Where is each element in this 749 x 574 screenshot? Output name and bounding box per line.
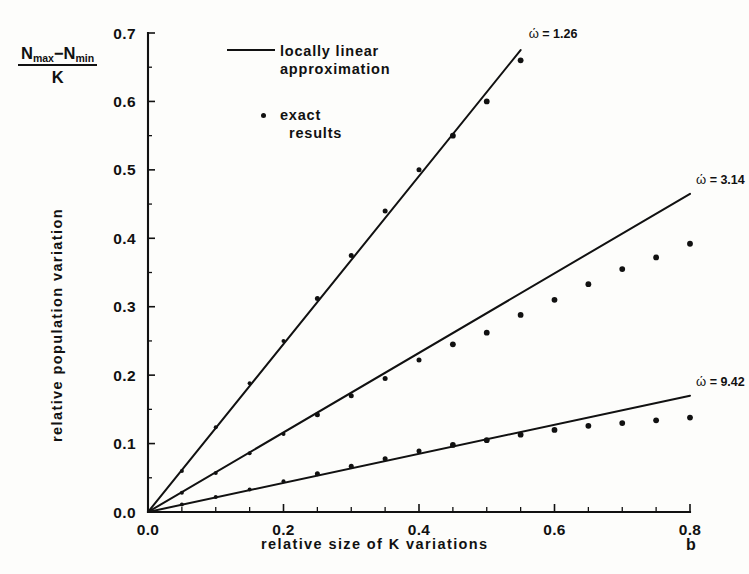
data-point (687, 241, 693, 247)
data-point (552, 297, 558, 303)
x-variable-symbol: b (686, 536, 696, 553)
data-point (383, 208, 388, 213)
series-label: ώ = 1.26 (529, 26, 578, 41)
data-point (282, 479, 286, 483)
data-point (518, 57, 524, 63)
data-point (349, 393, 354, 398)
data-point (417, 449, 422, 454)
data-point (315, 296, 320, 301)
data-point (518, 312, 524, 318)
plot-canvas: 0.00.10.20.30.40.50.60.70.00.20.40.60.8 … (0, 0, 749, 574)
tick-labels: 0.00.10.20.30.40.50.60.70.00.20.40.60.8 (113, 25, 701, 539)
data-point (484, 437, 490, 443)
data-point (214, 495, 218, 499)
y-tick-label: 0.1 (113, 435, 136, 452)
y-tick-label: 0.4 (113, 230, 136, 247)
y-tick-label: 0.2 (113, 367, 136, 384)
x-axis-title: relative size of K variations (261, 536, 489, 552)
data-point (214, 471, 218, 475)
data-point (552, 427, 558, 433)
data-point (484, 330, 490, 336)
y-tick-label: 0.5 (113, 161, 136, 178)
data-point (450, 133, 456, 139)
data-point (450, 442, 456, 448)
y-tick-label: 0.7 (113, 25, 136, 42)
data-point (315, 412, 320, 417)
fit-line (148, 50, 521, 512)
x-tick-label: 0.6 (543, 521, 566, 538)
data-point (349, 253, 354, 258)
data-point (214, 425, 218, 429)
data-point (315, 471, 320, 476)
fit-line (148, 194, 690, 512)
data-point (180, 502, 184, 506)
data-point (450, 341, 456, 347)
tick-marks (148, 33, 690, 512)
data-point (248, 451, 252, 455)
data-point (349, 464, 354, 469)
data-point (687, 415, 693, 421)
data-point (619, 266, 625, 272)
data-point (383, 456, 388, 461)
data-point (180, 491, 184, 495)
data-point (653, 255, 659, 261)
y-tick-label: 0.6 (113, 93, 136, 110)
data-point (248, 487, 252, 491)
data-point (585, 423, 591, 429)
series-labels: ώ = 1.26ώ = 3.14ώ = 9.42 (529, 26, 745, 389)
y-tick-label: 0.0 (113, 504, 136, 521)
series-label: ώ = 9.42 (696, 374, 745, 389)
axes (148, 33, 690, 512)
data-point (619, 420, 625, 426)
series-label: ώ = 3.14 (696, 172, 745, 187)
data-point (383, 376, 388, 381)
data-point (653, 417, 659, 423)
y-tick-label: 0.3 (113, 298, 136, 315)
data-point (585, 281, 591, 287)
data-point (417, 358, 422, 363)
fit-line (148, 396, 690, 512)
data-point (282, 339, 286, 343)
data-point (417, 167, 422, 172)
fit-lines (148, 50, 690, 512)
data-points (180, 57, 693, 506)
figure-root: Nmax−Nmin K locally linear approximation… (0, 0, 749, 574)
data-point (282, 432, 286, 436)
data-point (518, 432, 524, 438)
data-point (180, 469, 184, 473)
x-tick-label: 0.0 (137, 521, 160, 538)
data-point (248, 381, 252, 385)
data-point (484, 99, 490, 105)
